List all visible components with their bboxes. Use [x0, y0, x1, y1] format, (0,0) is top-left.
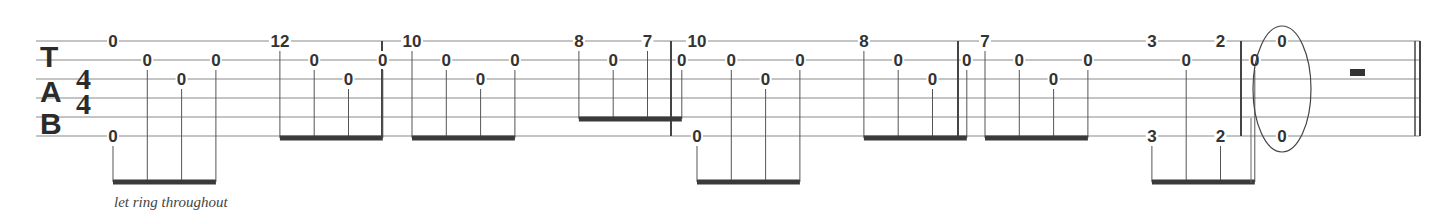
- beam: [864, 136, 967, 141]
- clef-letter-a: A: [40, 75, 62, 108]
- clef-letter-t: T: [40, 40, 58, 73]
- fret-number: 0: [476, 70, 485, 89]
- time-signature-bottom: 4: [76, 87, 91, 120]
- fret-number: 10: [688, 32, 707, 51]
- fret-number: 7: [643, 32, 652, 51]
- fret-number: 12: [270, 32, 289, 51]
- beam: [1152, 180, 1255, 185]
- tab-clef: T A B: [40, 40, 62, 140]
- fret-number: 0: [442, 51, 451, 70]
- fret-number: 0: [608, 51, 617, 70]
- fret-number: 3: [1147, 32, 1156, 51]
- fret-number: 0: [692, 127, 701, 146]
- clef-letter-b: B: [40, 107, 62, 140]
- fret-number: 0: [108, 32, 117, 51]
- fret-number: 7: [980, 32, 989, 51]
- fret-number: 0: [761, 70, 770, 89]
- fret-number: 0: [727, 51, 736, 70]
- fret-number: 0: [108, 127, 117, 146]
- half-rest-icon: [1350, 69, 1365, 76]
- fret-number: 0: [177, 70, 186, 89]
- let-ring-instruction: let ring throughout: [114, 194, 228, 210]
- time-signature: 4 4: [76, 62, 91, 120]
- fret-number: 0: [309, 51, 318, 70]
- fret-number: 8: [859, 32, 868, 51]
- fret-number: 0: [1015, 51, 1024, 70]
- fret-number: 0: [1277, 127, 1286, 146]
- fret-number: 3: [1147, 127, 1156, 146]
- notes: 000001200010000807010000080007000330220: [107, 32, 1261, 185]
- fret-number: 0: [344, 70, 353, 89]
- fret-number: 0: [510, 51, 519, 70]
- tab-staff: T A B 4 4 000001200010000807010000080007…: [0, 0, 1453, 215]
- fret-number: 0: [1083, 51, 1092, 70]
- beam: [579, 117, 682, 122]
- fret-number: 0: [378, 51, 387, 70]
- fret-number: 10: [403, 32, 422, 51]
- fret-number: 0: [1277, 32, 1286, 51]
- fret-number: 0: [677, 51, 686, 70]
- fret-number: 0: [962, 51, 971, 70]
- final-measure: 00: [1251, 26, 1420, 183]
- fret-number: 0: [1181, 51, 1190, 70]
- fret-number: 0: [211, 51, 220, 70]
- fret-number: 0: [1049, 70, 1058, 89]
- beam: [280, 136, 383, 141]
- fret-number: 8: [574, 32, 583, 51]
- beam: [412, 136, 515, 141]
- fret-number: 2: [1216, 127, 1225, 146]
- fret-number: 2: [1216, 32, 1225, 51]
- beam: [985, 136, 1088, 141]
- beam: [113, 180, 216, 185]
- fret-number: 0: [928, 70, 937, 89]
- fret-number: 0: [893, 51, 902, 70]
- fret-number: 0: [143, 51, 152, 70]
- fret-number: 0: [795, 51, 804, 70]
- beam: [697, 180, 800, 185]
